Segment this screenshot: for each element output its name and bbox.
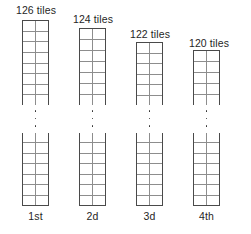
- tile-cell: [207, 154, 219, 163]
- tile-cell: [23, 143, 36, 152]
- tile-grid-top: [79, 28, 106, 105]
- tile-cell: [36, 185, 48, 194]
- tile-cell: [137, 64, 150, 74]
- tile-cell: [194, 73, 207, 83]
- tiles-count-label: 126 tiles: [12, 4, 60, 16]
- tile-cell: [23, 85, 36, 95]
- tile-row: [80, 51, 105, 62]
- tile-cell: [36, 95, 48, 105]
- tile-columns-figure: 126 tiles1st124 tiles2d122 tiles3d120 ti…: [0, 0, 251, 234]
- tile-cell: [150, 85, 162, 95]
- tile-row: [80, 164, 105, 174]
- tile-row: [23, 32, 48, 43]
- tile-cell: [194, 185, 207, 194]
- tile-cell: [137, 75, 150, 85]
- tile-cell: [80, 154, 93, 163]
- tile-cell: [23, 21, 36, 31]
- tile-row: [23, 154, 48, 164]
- tile-cell: [150, 75, 162, 85]
- tile-grid-top: [22, 20, 49, 105]
- tile-row: [23, 133, 48, 143]
- column-ordinal-label: 3d: [136, 210, 163, 222]
- tile-row: [194, 154, 219, 164]
- tile-row: [23, 42, 48, 53]
- tile-cell: [194, 133, 207, 142]
- tile-column-2: 124 tiles2d: [79, 0, 106, 234]
- tile-row: [23, 175, 48, 185]
- tile-grid-top: [136, 42, 163, 105]
- tile-cell: [150, 133, 162, 142]
- tile-row: [137, 154, 162, 164]
- tile-column-4: 120 tiles4th: [193, 0, 220, 234]
- tile-cell: [137, 143, 150, 152]
- tile-cell: [36, 164, 48, 173]
- tile-cell: [36, 42, 48, 52]
- tile-cell: [137, 96, 150, 106]
- tile-cell: [36, 21, 48, 31]
- tile-cell: [207, 143, 219, 152]
- tile-row: [23, 196, 48, 205]
- tile-cell: [80, 95, 93, 105]
- tile-row: [194, 143, 219, 153]
- tile-row: [80, 185, 105, 195]
- tile-cell: [93, 185, 105, 194]
- column-ordinal-label: 1st: [22, 210, 49, 222]
- tile-cell: [36, 85, 48, 95]
- tile-cell: [207, 175, 219, 184]
- tile-cell: [137, 54, 150, 64]
- tile-grid-bottom: [22, 133, 49, 206]
- tile-row: [137, 64, 162, 75]
- tile-cell: [23, 64, 36, 74]
- tile-cell: [80, 62, 93, 72]
- tile-cell: [80, 175, 93, 184]
- tile-row: [80, 133, 105, 143]
- tile-row: [137, 75, 162, 86]
- tile-row: [23, 95, 48, 105]
- tile-cell: [36, 154, 48, 163]
- tile-row: [194, 95, 219, 105]
- column-ordinal-label: 4th: [193, 210, 220, 222]
- tile-row: [194, 133, 219, 143]
- tile-cell: [137, 154, 150, 163]
- tile-row: [137, 43, 162, 54]
- tile-row: [80, 95, 105, 105]
- tile-cell: [137, 185, 150, 194]
- tile-row: [137, 175, 162, 185]
- tile-cell: [194, 51, 207, 61]
- tile-cell: [150, 175, 162, 184]
- tile-cell: [137, 175, 150, 184]
- tile-cell: [80, 196, 93, 205]
- tile-row: [80, 196, 105, 205]
- tile-row: [80, 143, 105, 153]
- tile-cell: [207, 95, 219, 105]
- tile-cell: [194, 143, 207, 152]
- tile-cell: [150, 64, 162, 74]
- tile-row: [137, 133, 162, 143]
- tile-cell: [93, 40, 105, 50]
- tile-row: [137, 164, 162, 174]
- tile-cell: [93, 84, 105, 94]
- tile-row: [23, 143, 48, 153]
- tile-cell: [194, 196, 207, 205]
- tile-cell: [36, 74, 48, 84]
- tile-cell: [150, 154, 162, 163]
- tile-cell: [23, 164, 36, 173]
- tile-row: [194, 196, 219, 205]
- tile-cell: [150, 196, 162, 205]
- tile-row: [23, 21, 48, 32]
- tile-cell: [194, 164, 207, 173]
- tile-cell: [93, 62, 105, 72]
- tile-cell: [23, 42, 36, 52]
- tile-row: [137, 96, 162, 106]
- tile-cell: [80, 40, 93, 50]
- tile-cell: [207, 84, 219, 94]
- tile-cell: [23, 196, 36, 205]
- tile-cell: [80, 133, 93, 142]
- tile-cell: [207, 185, 219, 194]
- tile-cell: [207, 73, 219, 83]
- tile-row: [194, 175, 219, 185]
- vertical-ellipsis-icon: [136, 110, 163, 127]
- tile-row: [23, 53, 48, 64]
- tile-row: [137, 54, 162, 65]
- tile-cell: [93, 143, 105, 152]
